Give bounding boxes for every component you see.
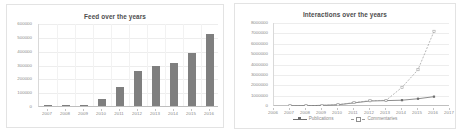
feed-vertical-gridline	[201, 24, 202, 106]
feed-vertical-gridline	[129, 24, 130, 106]
feed-vertical-gridline	[57, 24, 58, 106]
interactions-legend-swatch	[293, 117, 307, 122]
interactions-data-point	[385, 99, 387, 101]
feed-y-tick-label: 300000	[17, 63, 32, 67]
interactions-data-point	[289, 105, 291, 106]
interactions-x-tick-label: 2014	[396, 111, 406, 115]
interactions-legend-item: Commentaries	[351, 117, 397, 122]
feed-x-tick-label: 2015	[186, 112, 196, 116]
interactions-line-commentaries	[290, 31, 434, 105]
interactions-y-tick-label: 3000000	[251, 73, 268, 77]
interactions-data-point	[401, 99, 403, 101]
interactions-x-tick-label: 2016	[428, 111, 438, 115]
feed-x-tick-label: 2013	[150, 112, 160, 116]
interactions-plot-area	[273, 23, 449, 106]
interactions-x-tick-label: 2013	[380, 111, 390, 115]
interactions-y-tick-label: 5000000	[251, 52, 268, 56]
feed-x-axis-labels: 2007200820092010201120122013201420152016	[38, 109, 218, 119]
feed-y-tick-label: 400000	[17, 49, 32, 53]
feed-chart-title: Feed over the years	[7, 13, 223, 20]
interactions-y-axis-labels: 8000000700000060000005000000400000030000…	[237, 23, 271, 106]
feed-x-tick-label: 2014	[168, 112, 178, 116]
feed-y-tick-label: 500000	[17, 36, 32, 40]
feed-bar	[134, 71, 142, 106]
interactions-y-tick-label: 8000000	[251, 21, 268, 25]
interactions-data-point	[337, 104, 339, 106]
feed-plot-area	[38, 24, 218, 107]
interactions-x-tick-label: 2007	[284, 111, 294, 115]
feed-x-tick-label: 2010	[96, 112, 106, 116]
interactions-x-tick-label: 2015	[412, 111, 422, 115]
feed-bar	[170, 63, 178, 106]
feed-x-tick-label: 2008	[60, 112, 70, 116]
feed-vertical-gridline	[165, 24, 166, 106]
legend-marker	[356, 117, 361, 122]
interactions-x-tick-label: 2006	[268, 111, 278, 115]
feed-bar	[44, 105, 52, 106]
legend-marker	[298, 117, 301, 120]
interactions-data-point	[417, 98, 419, 100]
interactions-y-tick-label: 7000000	[251, 31, 268, 35]
interactions-y-tick-label: 0	[266, 104, 268, 108]
interactions-data-point	[417, 69, 419, 71]
feed-y-tick-label: 0	[30, 105, 32, 109]
feed-x-tick-label: 2012	[132, 112, 142, 116]
feed-x-tick-label: 2007	[42, 112, 52, 116]
interactions-data-point	[401, 86, 403, 88]
interactions-data-point	[321, 104, 323, 106]
interactions-y-tick-label: 6000000	[251, 42, 268, 46]
feed-vertical-gridline	[183, 24, 184, 106]
interactions-legend-label: Publications	[309, 117, 334, 122]
interactions-legend: PublicationsCommentaries	[235, 117, 455, 122]
interactions-legend-item: Publications	[293, 117, 334, 122]
interactions-y-tick-label: 2000000	[251, 83, 268, 87]
feed-vertical-gridline	[93, 24, 94, 106]
interactions-data-point	[433, 30, 435, 32]
interactions-data-point	[305, 105, 307, 106]
feed-x-tick-label: 2009	[78, 112, 88, 116]
feed-x-tick-label: 2016	[204, 112, 214, 116]
feed-vertical-gridline	[147, 24, 148, 106]
feed-bar	[116, 87, 124, 106]
interactions-x-tick-label: 2009	[316, 111, 326, 115]
interactions-legend-label: Commentaries	[367, 117, 397, 122]
feed-bar	[206, 34, 214, 106]
interactions-data-point	[433, 96, 435, 98]
interactions-chart-panel: Interactions over the years 800000070000…	[234, 3, 456, 129]
feed-bar	[98, 99, 106, 106]
interactions-legend-swatch	[351, 117, 365, 122]
interactions-data-point	[353, 101, 355, 103]
feed-vertical-gridline	[75, 24, 76, 106]
feed-y-tick-label: 100000	[17, 91, 32, 95]
interactions-x-tick-label: 2012	[364, 111, 374, 115]
feed-vertical-gridline	[111, 24, 112, 106]
interactions-x-tick-label: 2017	[444, 111, 454, 115]
interactions-y-tick-label: 4000000	[251, 62, 268, 66]
interactions-line-publications	[290, 97, 434, 106]
feed-bar	[152, 66, 160, 106]
interactions-data-point	[369, 100, 371, 102]
dual-chart-figure: Feed over the years 60000050000040000030…	[0, 0, 464, 136]
interactions-y-tick-label: 1000000	[251, 93, 268, 97]
feed-x-tick-label: 2011	[114, 112, 123, 116]
feed-y-tick-label: 600000	[17, 22, 32, 26]
interactions-x-tick-label: 2008	[300, 111, 310, 115]
feed-bar	[62, 105, 70, 106]
interactions-x-tick-label: 2011	[348, 111, 357, 115]
interactions-chart-title: Interactions over the years	[235, 11, 455, 18]
feed-chart-panel: Feed over the years 60000050000040000030…	[6, 4, 224, 128]
feed-bar	[80, 105, 88, 106]
interactions-x-tick-label: 2010	[332, 111, 342, 115]
interactions-series-canvas	[274, 23, 450, 106]
feed-y-tick-label: 200000	[17, 77, 32, 81]
feed-bar	[188, 53, 196, 106]
feed-y-axis-labels: 6000005000004000003000002000001000000	[7, 24, 35, 107]
